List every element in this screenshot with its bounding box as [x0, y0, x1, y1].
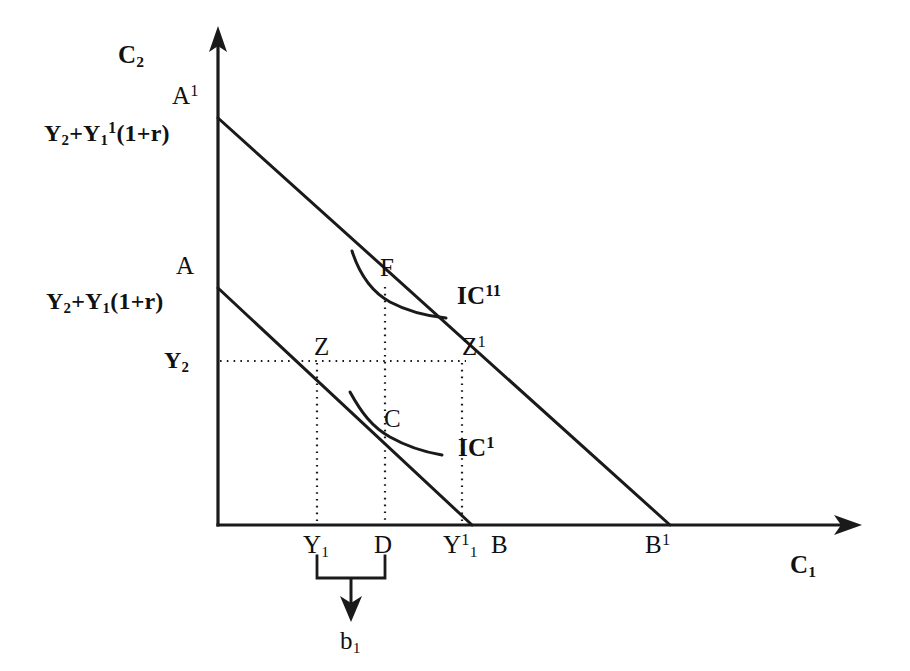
label-ic-high: IC11: [457, 283, 501, 308]
label-ic-low-main: IC: [458, 434, 486, 461]
y-intercept-expression-lower: Y2+Y1(1+r): [46, 288, 164, 316]
y2-level-label: Y2: [164, 348, 189, 375]
point-label-z-prime-sup: 1: [477, 332, 485, 351]
y2-level-main: Y: [164, 347, 182, 373]
expr-upper-plus: +Y: [69, 120, 100, 146]
point-label-a-main: A: [176, 252, 194, 279]
x-tick-y1-sub: 1: [321, 543, 329, 560]
label-ic-high-main: IC: [457, 282, 485, 309]
point-label-c-main: C: [384, 405, 401, 432]
point-label-z-main: Z: [314, 333, 329, 360]
label-ic-low: IC1: [458, 435, 495, 460]
x-tick-d-main: D: [374, 531, 392, 558]
point-label-f-main: F: [380, 254, 394, 281]
y-intercept-expression-upper: Y2+Y11(1+r): [44, 120, 170, 148]
borrowing-amount-main: b: [340, 627, 353, 654]
x-tick-b-main: B: [491, 531, 508, 558]
budget-line-upper: [218, 118, 670, 525]
x-tick-y1-prime-sup: 1: [461, 530, 469, 549]
x-tick-b-prime-main: B: [645, 531, 662, 558]
point-label-z: Z: [314, 334, 329, 359]
x-tick-y1-prime-main: Y: [443, 531, 461, 558]
point-label-f: F: [380, 255, 394, 280]
expr-upper-lead: Y: [44, 120, 62, 146]
point-label-c: C: [384, 406, 401, 431]
point-label-z-prime: Z1: [462, 334, 486, 359]
point-label-a-prime: A1: [172, 83, 199, 108]
point-label-z-prime-main: Z: [462, 333, 477, 360]
label-ic-low-sup: 1: [486, 433, 494, 452]
borrowing-bracket-group: [317, 556, 385, 622]
label-ic-high-sup: 11: [485, 281, 501, 300]
point-label-a-prime-sup: 1: [190, 81, 198, 100]
x-tick-y1-prime-sub: 1: [470, 543, 478, 560]
x-tick-label-b: B: [491, 532, 508, 557]
expr-lower-lead: Y: [46, 288, 64, 314]
x-tick-label-y1-prime: Y11: [443, 532, 478, 560]
budget-constraint-plot: [0, 0, 910, 671]
diagram-canvas: C2 C1 A1 Y2+Y11(1+r) A Y2+Y1(1+r) Y2 Z Z…: [0, 0, 910, 671]
y2-level-sub: 2: [182, 359, 190, 375]
x-tick-y1-main: Y: [303, 531, 321, 558]
expr-lower-plus: +Y: [71, 288, 102, 314]
expr-lower-tail: (1+r): [110, 288, 163, 314]
point-label-a: A: [176, 253, 194, 278]
y-axis-label-main: C: [118, 41, 136, 68]
budget-line-lower: [218, 288, 472, 525]
x-axis-label-sub: 1: [808, 563, 816, 580]
point-label-a-prime-main: A: [172, 82, 190, 109]
y-axis-label-sub: 2: [136, 53, 144, 70]
x-tick-label-y1: Y1: [303, 532, 329, 560]
axes-group: [209, 26, 862, 535]
x-axis-label: C1: [790, 552, 816, 580]
x-tick-label-d: D: [374, 532, 392, 557]
budget-lines-group: [218, 118, 670, 525]
indifference-curve-ic11: [352, 251, 446, 318]
expr-upper-tail: (1+r): [116, 120, 169, 146]
x-axis-label-main: C: [790, 551, 808, 578]
x-tick-label-b-prime: B1: [645, 532, 670, 557]
borrowing-amount-sub: 1: [353, 639, 361, 656]
y-axis-label: C2: [118, 42, 144, 70]
borrowing-amount-label: b1: [340, 628, 361, 656]
x-tick-b-prime-sup: 1: [662, 530, 670, 549]
